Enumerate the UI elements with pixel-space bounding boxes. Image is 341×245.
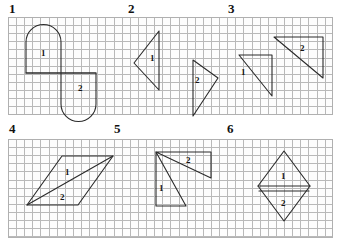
worksheet-sheet: 1 2 3 4 5 6 [0,0,341,245]
panel-number-6: 6 [227,122,234,135]
top-grid-band [8,17,333,115]
part-label-4-b: 2 [60,193,65,202]
part-label-5-a: 1 [159,184,164,193]
part-label-6-b: 2 [281,199,286,208]
panel-number-3: 3 [228,2,235,15]
part-label-3-b: 2 [300,44,305,53]
panel-number-1: 1 [9,2,16,15]
part-label-5-b: 2 [186,156,191,165]
part-label-2-a: 1 [150,54,155,63]
part-label-6-a: 1 [281,172,286,181]
panel-number-4: 4 [9,122,16,135]
bottom-grid-band [8,139,333,238]
part-label-2-b: 2 [195,76,200,85]
part-label-4-a: 1 [65,168,70,177]
part-label-1-b: 2 [78,84,83,93]
panel-number-2: 2 [128,2,135,15]
part-label-3-a: 1 [241,68,246,77]
part-label-1-a: 1 [41,49,46,58]
panel-number-5: 5 [114,122,121,135]
